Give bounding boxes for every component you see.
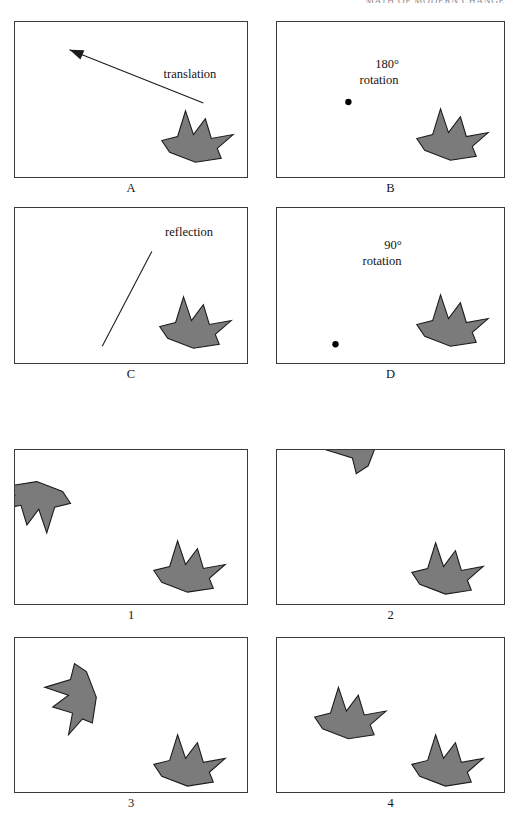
shape-original xyxy=(162,111,233,162)
panel-c: reflection xyxy=(14,207,248,364)
panel-a-graphic xyxy=(15,22,247,177)
panel-d: 90° rotation xyxy=(276,207,505,364)
panel-4-caption: 4 xyxy=(276,796,505,810)
shape-transformed-reflect xyxy=(45,664,97,735)
panel-b-graphic xyxy=(277,22,504,177)
shape-original xyxy=(154,541,225,592)
running-header: MATH OF MODERN CHANGE xyxy=(365,0,505,3)
panel-2-caption: 2 xyxy=(276,608,505,622)
panel-a-annotation: translation xyxy=(135,67,245,82)
shape-transformed-rotate-180 xyxy=(15,482,71,533)
reflection-axis-line xyxy=(102,251,152,346)
panel-3 xyxy=(14,637,248,793)
shape-original xyxy=(417,295,488,346)
panel-d-caption: D xyxy=(276,367,505,381)
panel-a-caption: A xyxy=(14,181,248,195)
panel-b: 180° rotation xyxy=(276,21,505,178)
rotation-center-dot xyxy=(332,341,338,347)
panel-3-caption: 3 xyxy=(14,796,248,810)
shape-original xyxy=(417,109,488,160)
shape-original xyxy=(160,297,231,348)
panel-a: translation xyxy=(14,21,248,178)
panel-b-caption: B xyxy=(276,181,505,195)
panel-1 xyxy=(14,449,248,605)
shape-transformed-rotate-90-ccw xyxy=(327,450,379,474)
panel-b-annotation-line2: rotation xyxy=(329,73,429,88)
panel-2-graphic xyxy=(277,450,504,604)
shape-original xyxy=(154,735,225,786)
panel-d-graphic xyxy=(277,208,504,363)
shape-transformed-translate xyxy=(315,687,386,738)
panel-c-caption: C xyxy=(14,367,248,381)
panel-1-caption: 1 xyxy=(14,608,248,622)
panel-4-graphic xyxy=(277,638,504,792)
panel-2 xyxy=(276,449,505,605)
panel-3-graphic xyxy=(15,638,247,792)
panel-1-graphic xyxy=(15,450,247,604)
shape-original xyxy=(412,543,483,594)
panel-d-annotation-line1: 90° xyxy=(343,238,443,253)
panel-4 xyxy=(276,637,505,793)
panel-c-annotation: reflection xyxy=(139,225,239,240)
shape-original xyxy=(412,735,483,786)
panel-b-annotation-line1: 180° xyxy=(337,57,437,72)
panel-d-annotation-line2: rotation xyxy=(332,254,432,269)
arrowhead-icon xyxy=(70,50,85,60)
figure-page: MATH OF MODERN CHANGE translation A 180°… xyxy=(0,0,519,818)
rotation-center-dot xyxy=(345,99,351,105)
